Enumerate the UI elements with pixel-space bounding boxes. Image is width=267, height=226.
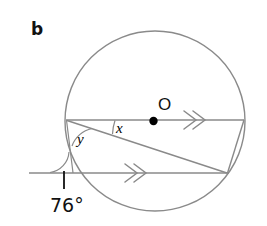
angle-label-y: y (77, 131, 84, 148)
angle-arc-76 (50, 152, 69, 173)
part-label-b: b (31, 19, 43, 39)
angle-arc-x (113, 121, 116, 135)
center-point-dot (149, 117, 157, 125)
angle-label-76: 76° (50, 194, 84, 216)
angle-label-x: x (116, 120, 123, 137)
left-vertex-connector (67, 120, 74, 173)
center-point-label: O (158, 95, 171, 115)
